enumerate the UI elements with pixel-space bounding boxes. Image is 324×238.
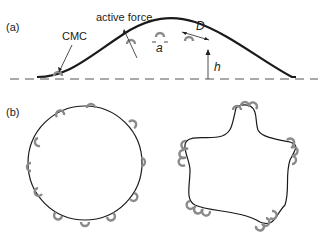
figure-canvas: (a) CMC active force a D h (b) [0,0,324,238]
motor-a-left [156,33,164,37]
a-label: a [156,41,163,55]
h-label: h [214,60,221,74]
panel-a-label: (a) [6,21,19,33]
membrane-curve [37,18,296,77]
h-arrowhead-icon [206,49,211,55]
d-arrowhead-left-icon [182,32,187,35]
active-force-motor [127,40,135,44]
d-label: D [196,19,205,33]
motor-d [185,37,193,41]
panel-b-label: (b) [6,106,19,118]
active-force-label: active force [96,11,152,23]
cmc-label: CMC [62,30,87,42]
circular-vesicle [28,106,142,220]
star-vesicle [185,105,296,224]
d-arrowhead-right-icon [204,37,209,40]
